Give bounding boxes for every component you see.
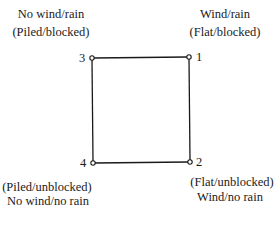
bottom-left-condition-label: No wind/no rain [7,194,89,207]
left-edge [92,60,93,161]
top-edge [94,57,187,58]
bottom-right-state-label: (Flat/unblocked) [190,175,273,189]
vertex-1-marker [187,55,191,59]
vertex-3-number: 3 [79,51,85,65]
vertex-4-number: 4 [80,156,86,170]
bottom-left-state-label: (Piled/unblocked) [2,180,92,194]
vertex-2-marker [188,160,192,164]
vertex-2-number: 2 [196,155,202,169]
bottom-right-condition-label: Wind/no rain [197,190,263,204]
vertex-4-marker [91,161,95,165]
vertex-1-number: 1 [196,50,202,64]
bottom-edge [95,162,188,163]
vertex-3-marker [90,56,94,60]
right-edge [189,59,190,160]
